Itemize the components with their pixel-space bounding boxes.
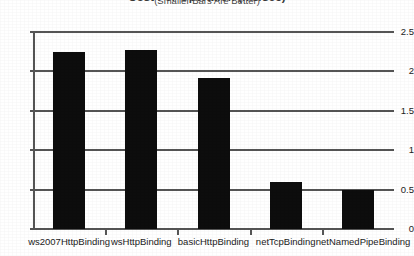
y-tick-label: 0	[388, 224, 414, 234]
gridline	[33, 70, 394, 72]
gridline	[33, 31, 394, 33]
y-tick-mark	[30, 31, 34, 33]
chart-subtitle: (Smaller Bars Are Better)	[0, 0, 414, 6]
x-tick-label: netNamedPipeBinding	[316, 236, 400, 247]
bar	[125, 50, 157, 229]
x-tick-mark	[177, 230, 179, 235]
y-tick-mark	[30, 70, 34, 72]
bar	[342, 190, 374, 229]
y-tick-label: 0.5	[388, 185, 414, 195]
chart-title-block: Cost Per Operation (ms/sec) (Smaller Bar…	[0, 0, 414, 4]
y-tick-mark	[30, 228, 34, 230]
x-tick-mark	[322, 230, 324, 235]
y-axis	[0, 0, 30, 256]
x-tick-mark	[105, 230, 107, 235]
bar	[53, 52, 85, 229]
y-tick-mark	[30, 110, 34, 112]
y-tick-mark	[30, 149, 34, 151]
y-tick-label: 1	[388, 145, 414, 155]
bar-chart: Cost Per Operation (ms/sec) (Smaller Bar…	[0, 0, 414, 256]
y-tick-label: 2.5	[388, 27, 414, 37]
y-tick-mark	[30, 189, 34, 191]
bar	[198, 78, 230, 229]
x-tick-mark	[250, 230, 252, 235]
y-tick-label: 2	[388, 66, 414, 76]
plot-area	[33, 32, 394, 229]
bar	[270, 182, 302, 229]
y-tick-label: 1.5	[388, 106, 414, 116]
